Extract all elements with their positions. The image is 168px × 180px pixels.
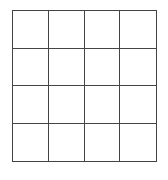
grid <box>12 10 157 162</box>
grid-cell <box>85 124 121 162</box>
grid-cell <box>120 86 156 124</box>
grid-cell <box>120 124 156 162</box>
grid-cell <box>13 124 49 162</box>
grid-cell <box>13 11 49 49</box>
grid-cell <box>120 49 156 87</box>
grid-cell <box>49 11 85 49</box>
grid-cell <box>85 11 121 49</box>
grid-cell <box>49 124 85 162</box>
grid-cell <box>13 49 49 87</box>
grid-cell <box>49 86 85 124</box>
grid-cell <box>49 49 85 87</box>
grid-cell <box>13 86 49 124</box>
grid-cell <box>85 49 121 87</box>
grid-cell <box>120 11 156 49</box>
grid-cell <box>85 86 121 124</box>
